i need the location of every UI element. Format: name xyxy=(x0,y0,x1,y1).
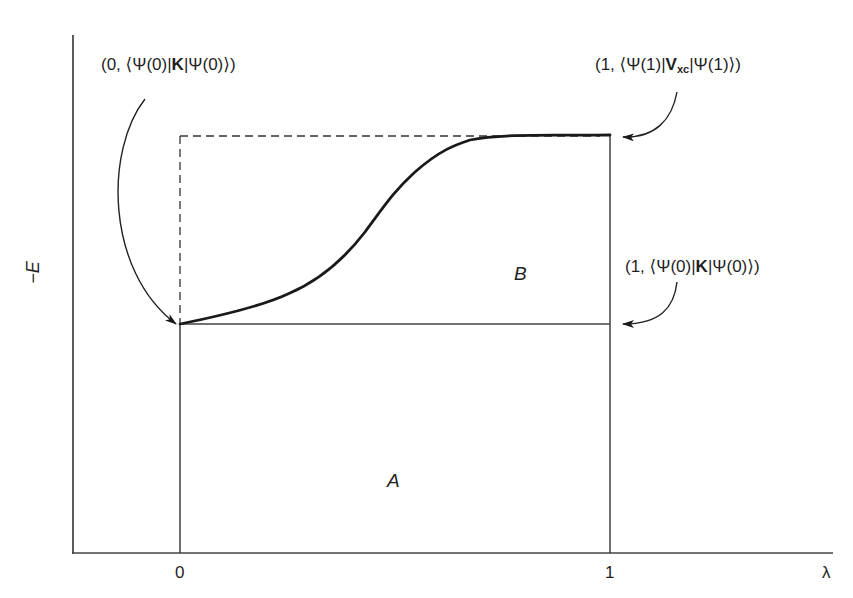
start-point-operator: K xyxy=(172,55,184,74)
x-axis-label: λ xyxy=(822,563,831,583)
lower-right-suffix: |Ψ(0)⟩) xyxy=(708,257,760,276)
x-tick-0: 0 xyxy=(175,563,184,583)
region-b-label: B xyxy=(514,263,527,285)
y-axis-label-text: −E xyxy=(23,261,43,284)
start-point-arrow xyxy=(118,99,176,324)
lower-right-operator: K xyxy=(696,257,708,276)
energy-curve xyxy=(180,135,610,324)
start-point-prefix: (0, ⟨Ψ(0)| xyxy=(101,55,172,74)
region-a-label: A xyxy=(387,470,400,492)
start-point-suffix: |Ψ(0)⟩) xyxy=(184,55,236,74)
lower-right-prefix: (1, ⟨Ψ(0)| xyxy=(625,257,696,276)
start-point-annotation: (0, ⟨Ψ(0)|K|Ψ(0)⟩) xyxy=(101,54,236,75)
end-point-operator-subscript: xc xyxy=(677,63,689,75)
lower-point-arrow xyxy=(623,282,677,324)
y-axis-label: −E xyxy=(23,261,44,284)
end-point-arrow xyxy=(623,92,677,137)
x-tick-1: 1 xyxy=(605,563,614,583)
end-point-suffix: |Ψ(1)⟩) xyxy=(689,55,741,74)
end-point-prefix: (1, ⟨Ψ(1)| xyxy=(595,55,666,74)
diagram-canvas xyxy=(0,0,853,598)
lower-right-annotation: (1, ⟨Ψ(0)|K|Ψ(0)⟩) xyxy=(625,256,760,277)
end-point-operator: V xyxy=(666,55,677,74)
end-point-annotation: (1, ⟨Ψ(1)|Vxc|Ψ(1)⟩) xyxy=(595,54,741,75)
